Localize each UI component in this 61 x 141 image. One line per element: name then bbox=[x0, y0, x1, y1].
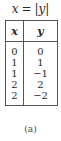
table-header-row: x y bbox=[6, 21, 58, 42]
equation-equals: = bbox=[21, 2, 31, 16]
cell-x: 2 bbox=[6, 79, 24, 90]
cell-y: 0 bbox=[24, 42, 58, 58]
figure-caption: (a) bbox=[0, 124, 61, 134]
equation-title: x=|y| bbox=[0, 2, 61, 16]
header-x: x bbox=[6, 21, 24, 42]
equation-lhs: x bbox=[12, 2, 19, 16]
cell-y: 1 bbox=[24, 57, 58, 68]
cell-y: −2 bbox=[24, 90, 58, 106]
table-row: 2 −2 bbox=[6, 90, 58, 106]
cell-y: −1 bbox=[24, 68, 58, 79]
equation-rhs: |y| bbox=[34, 2, 49, 16]
cell-x: 2 bbox=[6, 90, 24, 106]
cell-x: 1 bbox=[6, 68, 24, 79]
table-row: 2 2 bbox=[6, 79, 58, 90]
cell-x: 0 bbox=[6, 42, 24, 58]
header-y: y bbox=[24, 21, 58, 42]
table-row: 1 −1 bbox=[6, 68, 58, 79]
cell-y: 2 bbox=[24, 79, 58, 90]
table-row: 0 0 bbox=[6, 42, 58, 58]
values-table: x y 0 0 1 1 1 −1 2 2 2 −2 bbox=[5, 20, 58, 106]
table-row: 1 1 bbox=[6, 57, 58, 68]
cell-x: 1 bbox=[6, 57, 24, 68]
